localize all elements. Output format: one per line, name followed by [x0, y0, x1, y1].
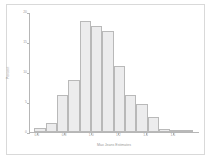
histogram-bar	[159, 129, 170, 132]
y-axis-tick-label: 10	[23, 71, 27, 74]
histogram-bar	[148, 117, 159, 132]
x-axis-tick-label: 1.4	[143, 134, 148, 137]
y-axis-tick-label: 0	[25, 131, 27, 134]
histogram-bar	[68, 80, 79, 132]
histogram-bar	[57, 95, 68, 132]
x-axis-tick-label: 0.6	[34, 134, 39, 137]
y-axis-tick	[27, 13, 30, 14]
y-axis-tick	[27, 73, 30, 74]
x-axis-tick-label: 1.6	[170, 134, 175, 137]
histogram-bar	[125, 95, 136, 132]
x-axis-tick-label: 1.2	[116, 134, 121, 137]
x-axis-title: Max Jeans Estimates	[29, 144, 199, 148]
histogram-figure: 05101520 0.60.81.01.21.41.6 Max Jeans Es…	[0, 0, 211, 163]
y-axis-tick-label: 15	[23, 41, 27, 44]
y-axis-tick-label: 20	[23, 11, 27, 14]
x-axis-tick-label: 0.8	[62, 134, 67, 137]
histogram-bar	[182, 130, 193, 132]
x-axis-tick-label: 1.0	[89, 134, 94, 137]
histogram-bar	[46, 123, 57, 132]
histogram-bar	[136, 104, 147, 132]
histogram-bar	[114, 66, 125, 132]
histogram-bar	[91, 26, 102, 132]
y-axis-tick	[27, 43, 30, 44]
histogram-bar	[80, 21, 91, 132]
bar-series	[30, 13, 199, 132]
histogram-bar	[102, 31, 113, 132]
y-axis-tick	[27, 103, 30, 104]
y-axis-tick	[27, 133, 30, 134]
y-axis-tick-label: 5	[25, 101, 27, 104]
y-axis-title: Percent	[7, 67, 11, 79]
plot-area: 05101520 0.60.81.01.21.41.6	[29, 13, 199, 133]
